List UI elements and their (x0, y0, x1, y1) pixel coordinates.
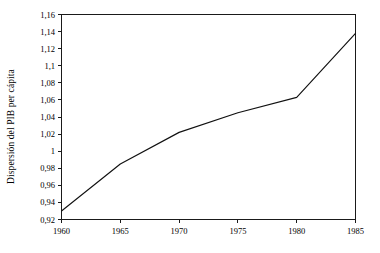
x-tick-label: 1985 (347, 226, 364, 236)
plot-canvas: 0,920,940,960,9811,021,041,061,081,11,12… (0, 0, 380, 253)
x-tick-label: 1980 (288, 226, 305, 236)
data-series-layer (62, 33, 356, 211)
y-tick-label: 1,02 (40, 129, 55, 139)
y-tick-label: 1,12 (40, 44, 55, 54)
y-tick-label: 1,04 (40, 112, 56, 122)
y-tick-layer: 0,920,940,960,9811,021,041,061,081,11,12… (40, 10, 61, 225)
y-tick-label: 1,08 (40, 78, 55, 88)
y-tick-label: 0,96 (40, 180, 55, 190)
x-tick-label: 1970 (171, 226, 188, 236)
y-tick-label: 1 (51, 146, 55, 156)
y-tick-label: 1,14 (40, 27, 56, 37)
x-tick-layer: 196019651970197519801985 (53, 220, 364, 236)
y-tick-label: 1,16 (40, 10, 55, 20)
y-tick-label: 0,92 (40, 215, 55, 225)
series-line (62, 33, 356, 211)
axis-frame (62, 15, 356, 220)
y-tick-label: 1,1 (44, 61, 55, 71)
y-tick-label: 0,98 (40, 163, 55, 173)
x-tick-label: 1975 (229, 226, 246, 236)
x-tick-label: 1960 (53, 226, 70, 236)
chart-figure: Dispersión del PIB per cápita 0,920,940,… (0, 0, 380, 253)
y-tick-label: 0,94 (40, 197, 56, 207)
plot-border (62, 15, 356, 220)
x-tick-label: 1965 (112, 226, 129, 236)
y-tick-label: 1,06 (40, 95, 55, 105)
